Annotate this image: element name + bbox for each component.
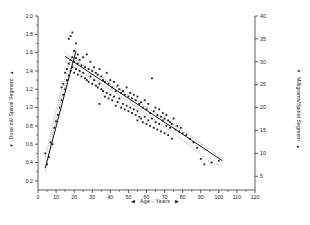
data-point bbox=[99, 83, 101, 85]
data-point bbox=[79, 59, 81, 61]
data-point bbox=[155, 107, 157, 109]
data-point bbox=[169, 127, 171, 129]
data-point bbox=[117, 85, 119, 87]
data-point bbox=[180, 127, 182, 129]
data-point bbox=[95, 72, 97, 74]
right-tick-label: 5 bbox=[260, 173, 263, 179]
data-point bbox=[117, 101, 119, 103]
data-point bbox=[97, 74, 99, 76]
left-axis-title: Dose ml/ Spinal Segment bbox=[8, 79, 14, 140]
data-point bbox=[165, 114, 167, 116]
data-point bbox=[135, 99, 137, 101]
data-point bbox=[88, 68, 90, 70]
data-point bbox=[75, 68, 77, 70]
data-point bbox=[124, 109, 126, 111]
left-tick-label: 0.6 bbox=[26, 141, 33, 147]
data-point bbox=[55, 120, 57, 122]
left-axis-arrow-bottom: ▼ bbox=[9, 143, 14, 148]
data-point bbox=[106, 92, 108, 94]
data-point bbox=[86, 54, 88, 56]
data-point bbox=[68, 63, 70, 65]
data-point bbox=[169, 121, 171, 123]
data-point bbox=[99, 68, 101, 70]
data-point bbox=[102, 90, 104, 92]
data-point bbox=[64, 72, 66, 74]
data-point bbox=[167, 120, 169, 122]
data-point bbox=[196, 147, 198, 149]
data-point bbox=[113, 96, 115, 98]
right-tick-label: 30 bbox=[260, 59, 266, 65]
x-axis-arrow-right: ▶ bbox=[175, 199, 179, 204]
data-point bbox=[126, 87, 128, 89]
data-point bbox=[137, 110, 139, 112]
right-tick-label: 20 bbox=[260, 104, 266, 110]
data-point bbox=[129, 107, 131, 109]
data-point bbox=[165, 125, 167, 127]
data-point bbox=[118, 88, 120, 90]
data-point bbox=[70, 35, 72, 37]
data-point bbox=[203, 163, 205, 165]
data-point bbox=[115, 105, 117, 107]
data-point bbox=[61, 87, 63, 89]
data-point bbox=[93, 79, 95, 81]
data-point bbox=[118, 98, 120, 100]
data-point bbox=[93, 66, 95, 68]
data-point bbox=[137, 96, 139, 98]
data-point bbox=[73, 50, 75, 52]
x-axis-title-group: ◀ Age - Years ▶ bbox=[0, 198, 310, 204]
data-point bbox=[82, 72, 84, 74]
data-point bbox=[128, 96, 130, 98]
right-tick-label: 10 bbox=[260, 150, 266, 156]
data-point bbox=[147, 103, 149, 105]
data-point bbox=[61, 99, 63, 101]
data-point bbox=[129, 92, 131, 94]
data-point bbox=[90, 76, 92, 78]
data-point bbox=[167, 134, 169, 136]
left-tick-label: 1.0 bbox=[26, 104, 33, 110]
data-point bbox=[211, 162, 213, 164]
left-tick-label: 1.4 bbox=[26, 68, 33, 74]
data-point bbox=[84, 77, 86, 79]
data-point bbox=[111, 99, 113, 101]
data-point bbox=[144, 116, 146, 118]
data-point bbox=[109, 94, 111, 96]
data-point bbox=[66, 79, 68, 81]
data-point bbox=[59, 107, 61, 109]
data-point bbox=[91, 83, 93, 85]
data-point bbox=[108, 98, 110, 100]
scatter-chart: 0.20.40.60.81.01.21.41.61.82.05101520253… bbox=[0, 0, 310, 225]
data-point bbox=[133, 94, 135, 96]
data-point bbox=[81, 76, 83, 78]
data-point bbox=[97, 87, 99, 89]
data-point bbox=[140, 101, 142, 103]
data-point bbox=[158, 123, 160, 125]
left-tick-label: 0.4 bbox=[26, 159, 33, 165]
data-point bbox=[171, 123, 173, 125]
data-point bbox=[135, 114, 137, 116]
data-point bbox=[120, 107, 122, 109]
data-point bbox=[75, 43, 77, 45]
data-point bbox=[160, 130, 162, 132]
data-point bbox=[151, 77, 153, 79]
left-tick-label: 0.2 bbox=[26, 178, 33, 184]
data-point bbox=[62, 83, 64, 85]
right-tick-label: 15 bbox=[260, 127, 266, 133]
data-point bbox=[164, 132, 166, 134]
left-tick-label: 0.8 bbox=[26, 123, 33, 129]
left-axis-title-group: ▼ Dose ml/ Spinal Segment ▲ bbox=[8, 54, 14, 164]
data-point bbox=[71, 32, 73, 34]
data-point bbox=[153, 127, 155, 129]
data-point bbox=[104, 96, 106, 98]
data-point bbox=[91, 70, 93, 72]
data-point bbox=[164, 118, 166, 120]
left-tick-label: 1.2 bbox=[26, 86, 33, 92]
data-point bbox=[53, 127, 55, 129]
data-point bbox=[44, 152, 46, 154]
data-point bbox=[149, 125, 151, 127]
data-point bbox=[77, 74, 79, 76]
data-point bbox=[86, 79, 88, 81]
data-point bbox=[75, 57, 77, 59]
data-point bbox=[128, 110, 130, 112]
data-point bbox=[77, 54, 79, 56]
data-point bbox=[200, 158, 202, 160]
